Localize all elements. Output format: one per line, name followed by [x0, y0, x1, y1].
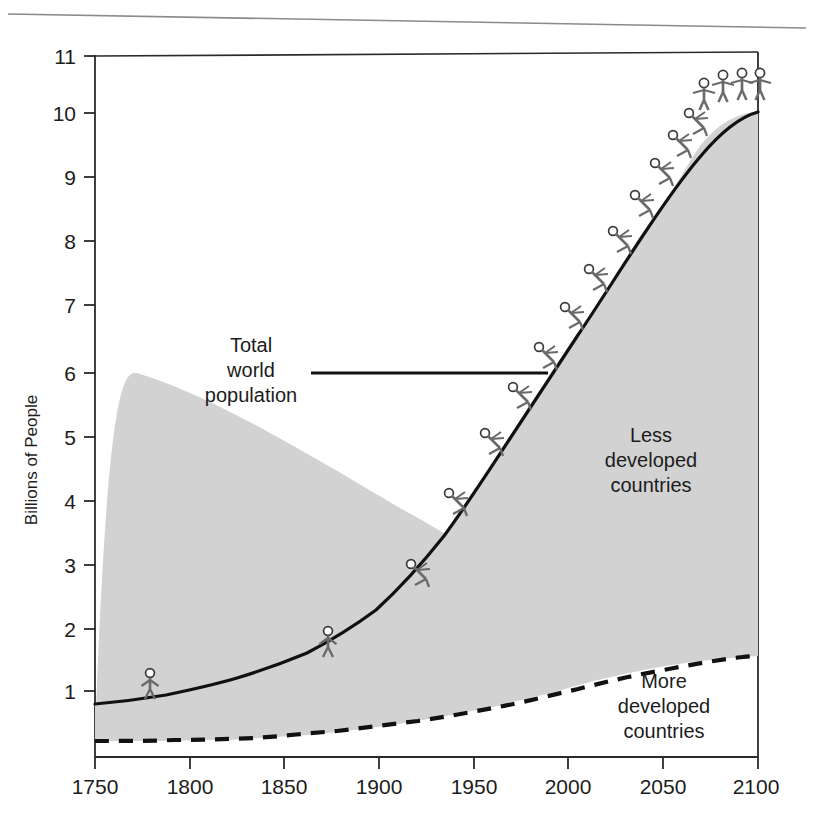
y-tick-label-8: 8	[64, 230, 76, 253]
total-annotation-line-3: population	[205, 384, 297, 406]
y-tick-label-9: 9	[64, 166, 76, 189]
y-tick-label-4: 4	[64, 490, 76, 513]
y-tick-label-3: 3	[64, 554, 76, 577]
y-tick-label-11: 11	[54, 45, 76, 68]
y-tick-label-5: 5	[64, 426, 76, 449]
less-annotation-line-3: countries	[610, 474, 691, 496]
more-annotation-line-1: More	[641, 670, 687, 692]
y-tick-label-7: 7	[64, 294, 76, 317]
less-annotation-line-1: Less	[630, 424, 672, 446]
population-growth-figure: 11 10 9 8 7 6 5 4 3 2 1 Billions of Peop…	[0, 0, 813, 831]
x-tick-label-2050: 2050	[640, 775, 687, 798]
y-axis-title: Billions of People	[22, 395, 41, 525]
x-tick-label-1900: 1900	[356, 775, 403, 798]
y-tick-label-10: 10	[53, 102, 76, 125]
x-tick-label-1800: 1800	[167, 775, 214, 798]
total-annotation-line-1: Total	[230, 334, 272, 356]
x-tick-label-1850: 1850	[261, 775, 308, 798]
world-population-area-chart: 11 10 9 8 7 6 5 4 3 2 1 Billions of Peop…	[0, 0, 813, 831]
x-tick-label-1950: 1950	[451, 775, 498, 798]
total-annotation-line-2: world	[226, 359, 275, 381]
y-tick-label-2: 2	[64, 618, 76, 641]
x-tick-label-2000: 2000	[545, 775, 592, 798]
x-tick-label-1750: 1750	[72, 775, 119, 798]
more-annotation-line-2: developed	[618, 695, 710, 717]
x-tick-label-2100: 2100	[733, 775, 780, 798]
less-annotation-line-2: developed	[605, 449, 697, 471]
more-annotation-line-3: countries	[623, 720, 704, 742]
y-tick-label-1: 1	[64, 680, 76, 703]
y-tick-label-6: 6	[64, 362, 76, 385]
